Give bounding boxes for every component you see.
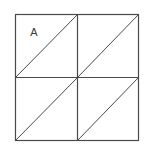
figure-container: A bbox=[0, 0, 149, 150]
square-subdivision-diagram: A bbox=[0, 0, 149, 150]
region-label-a: A bbox=[30, 26, 38, 38]
figure-background bbox=[0, 0, 149, 150]
